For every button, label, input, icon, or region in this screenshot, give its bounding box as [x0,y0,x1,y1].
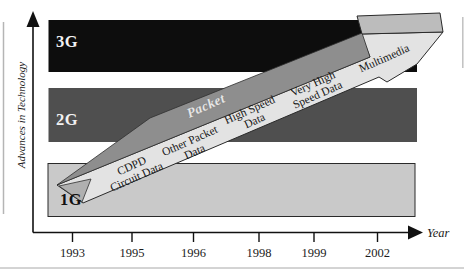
figure-canvas [0,0,464,274]
x-axis-arrowhead [408,226,423,240]
x-axis-ticks [73,233,378,243]
y-axis-arrowhead [27,11,40,27]
technology-timeline-figure: Advances in Technology Year 1993 1995 19… [0,0,464,274]
arrowhead-top-face [357,13,443,34]
